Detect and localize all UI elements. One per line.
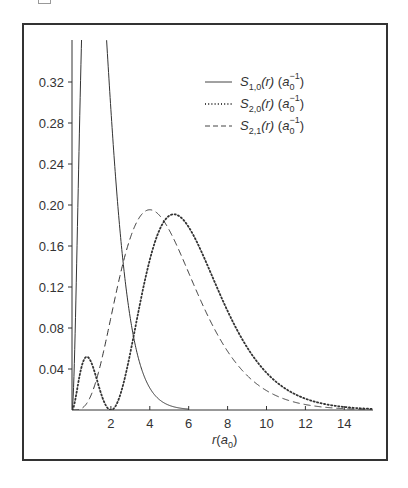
legend-label: S1,0(r) (a0−1) <box>240 71 304 92</box>
x-tick-label: 6 <box>185 416 192 431</box>
x-tick-label: 10 <box>259 416 273 431</box>
x-axis-label: r(a0) <box>212 432 237 450</box>
legend: S1,0(r) (a0−1)S2,0(r) (a0−1)S2,1(r) (a0−… <box>205 71 304 136</box>
axes: 24681012140.040.080.120.160.200.240.280.… <box>39 40 373 431</box>
curves <box>72 0 372 410</box>
x-tick-label: 14 <box>337 416 351 431</box>
y-tick-label: 0.16 <box>39 239 64 254</box>
chart: 24681012140.040.080.120.160.200.240.280.… <box>0 0 408 488</box>
x-tick-label: 4 <box>146 416 153 431</box>
y-tick-label: 0.04 <box>39 362 64 377</box>
y-tick-label: 0.12 <box>39 280 64 295</box>
x-tick-label: 2 <box>107 416 114 431</box>
series-dashed-line <box>72 210 372 410</box>
y-tick-label: 0.20 <box>39 198 64 213</box>
y-tick-label: 0.28 <box>39 116 64 131</box>
legend-label: S2,1(r) (a0−1) <box>240 115 304 136</box>
y-tick-label: 0.32 <box>39 75 64 90</box>
x-tick-label: 8 <box>224 416 231 431</box>
y-tick-label: 0.24 <box>39 157 64 172</box>
series-solid-line <box>72 0 189 410</box>
x-tick-label: 12 <box>298 416 312 431</box>
y-tick-label: 0.08 <box>39 321 64 336</box>
series-dotted-line <box>72 214 372 410</box>
legend-label: S2,0(r) (a0−1) <box>240 93 304 114</box>
